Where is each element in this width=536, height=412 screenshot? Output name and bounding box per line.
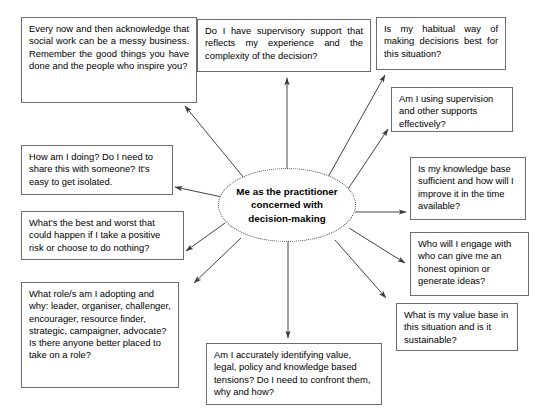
node-label: Every now and then acknowledge that soci…: [29, 23, 189, 71]
edge-to-value-base-sustainable: [335, 240, 386, 298]
edge-to-how-am-i-doing: [175, 187, 222, 197]
edge-to-who-will-i-engage: [349, 228, 405, 263]
node-label: Am I using supervision and other support…: [399, 93, 493, 129]
node-knowledge-base-sufficient: Is my knowledge base sufficient and how …: [410, 157, 526, 220]
node-value-base-sustainable: What is my value base in this situation …: [396, 303, 518, 351]
node-label: How am I doing? Do I need to share this …: [29, 151, 153, 187]
node-using-supervision-supports: Am I using supervision and other support…: [391, 87, 513, 132]
node-identifying-tensions: Am I accurately identifying value, legal…: [206, 343, 382, 405]
node-label: Is my knowledge base sufficient and how …: [418, 163, 514, 211]
center-node: Me as the practitioner concerned with de…: [218, 168, 356, 242]
edge-to-what-roles-am-i-adopting: [194, 238, 241, 283]
node-habitual-way-of-deciding: Is my habitual way of making decisions b…: [376, 17, 506, 70]
center-node-label: Me as the practitioner concerned with de…: [219, 185, 355, 225]
node-best-and-worst: What's the best and worst that could hap…: [21, 211, 184, 260]
node-acknowledge-messy-business: Every now and then acknowledge that soci…: [21, 17, 197, 103]
node-what-roles-am-i-adopting: What role/s am I adopting and why: leade…: [21, 282, 179, 388]
edge-to-best-and-worst: [186, 223, 225, 251]
mind-map-diagram: Me as the practitioner concerned with de…: [0, 0, 536, 412]
node-how-am-i-doing: How am I doing? Do I need to share this …: [21, 145, 173, 195]
node-supervisory-support: Do I have supervisory support that refle…: [197, 19, 371, 72]
node-label: Am I accurately identifying value, legal…: [214, 349, 370, 397]
node-who-will-i-engage: Who will I engage with who can give me a…: [410, 232, 529, 296]
node-label: Who will I engage with who can give me a…: [418, 238, 511, 286]
node-label: What is my value base in this situation …: [404, 309, 508, 345]
edge-to-acknowledge-messy-business: [185, 106, 244, 178]
node-label: What's the best and worst that could hap…: [29, 217, 160, 253]
node-label: What role/s am I adopting and why: leade…: [29, 288, 171, 360]
node-label: Do I have supervisory support that refle…: [205, 25, 363, 61]
node-label: Is my habitual way of making decisions b…: [384, 23, 498, 59]
edge-to-habitual-way-of-deciding: [327, 75, 385, 179]
